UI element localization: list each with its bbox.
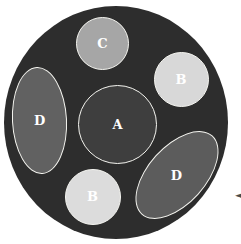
label-b-top-right: B — [176, 73, 187, 86]
label-b-bottom: B — [87, 190, 98, 203]
left-arrowhead-icon: ◄ — [235, 191, 241, 200]
circle-a-center: A — [78, 85, 157, 164]
label-d-left: D — [33, 114, 44, 127]
label-d-bottom-right: D — [171, 168, 182, 181]
circle-b-top-right: B — [154, 52, 209, 107]
label-c: C — [97, 37, 107, 50]
circle-b-bottom: B — [65, 169, 121, 225]
label-a: A — [112, 118, 122, 131]
circle-c-top: C — [76, 17, 129, 70]
diagram-canvas: D C B A D B ◄ — [0, 0, 241, 244]
